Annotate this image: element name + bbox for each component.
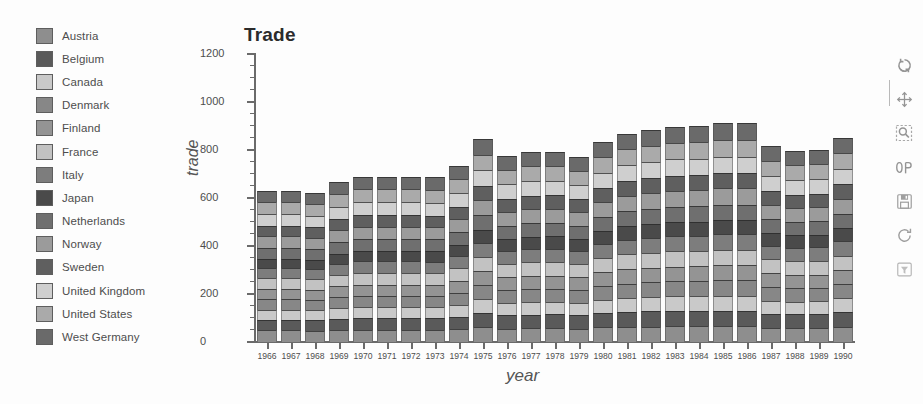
legend-item-netherlands[interactable]: Netherlands (36, 210, 206, 233)
bar-1981[interactable] (617, 134, 636, 342)
bar-1989[interactable] (809, 150, 828, 342)
bar-segment-france (329, 275, 348, 287)
bar-segment-belgium (257, 320, 276, 331)
home-icon[interactable] (893, 54, 915, 76)
legend-item-japan[interactable]: Japan (36, 186, 206, 209)
bar-1977[interactable] (521, 152, 540, 342)
bar-1976[interactable] (497, 156, 516, 342)
bar-segment-japan (785, 235, 804, 247)
x-tick (555, 343, 557, 349)
bar-1979[interactable] (569, 157, 588, 342)
save-icon[interactable] (893, 190, 915, 212)
bar-segment-sweden (545, 195, 564, 208)
bar-1974[interactable] (449, 166, 468, 342)
bar-segment-canada (785, 302, 804, 315)
bar-segment-italy (305, 269, 324, 279)
bar-segment-japan (497, 239, 516, 251)
subplots-icon[interactable] (893, 156, 915, 178)
bar-1988[interactable] (785, 151, 804, 342)
bar-segment-austria (377, 330, 396, 342)
legend-item-belgium[interactable]: Belgium (36, 47, 206, 70)
x-tick-label: 1982 (641, 351, 660, 361)
bar-segment-united-kingdom (545, 181, 564, 196)
bar-segment-japan (689, 222, 708, 236)
bar-segment-united-kingdom (425, 203, 444, 216)
bar-1987[interactable] (761, 146, 780, 342)
legend-item-west-germany[interactable]: West Germany (36, 325, 206, 348)
legend-item-austria[interactable]: Austria (36, 24, 206, 47)
bar-segment-austria (713, 326, 732, 342)
bar-1983[interactable] (665, 127, 684, 342)
bar-segment-norway (329, 230, 348, 242)
bar-1966[interactable] (257, 191, 276, 342)
bar-segment-finland (737, 265, 756, 280)
bar-segment-norway (377, 227, 396, 239)
zoom-rect-icon[interactable] (893, 122, 915, 144)
bar-1967[interactable] (281, 191, 300, 342)
bar-1968[interactable] (305, 193, 324, 342)
legend-item-finland[interactable]: Finland (36, 117, 206, 140)
bar-1969[interactable] (329, 182, 348, 342)
bar-segment-canada (281, 310, 300, 320)
bar-segment-united-states (401, 189, 420, 202)
bar-segment-italy (377, 261, 396, 272)
bar-segment-netherlands (521, 223, 540, 237)
legend-item-canada[interactable]: Canada (36, 70, 206, 93)
legend-item-france[interactable]: France (36, 140, 206, 163)
bar-segment-united-states (785, 165, 804, 180)
legend-item-norway[interactable]: Norway (36, 233, 206, 256)
bar-segment-france (617, 254, 636, 269)
legend-item-italy[interactable]: Italy (36, 163, 206, 186)
y-tick (247, 293, 255, 295)
bar-segment-belgium (785, 314, 804, 328)
bar-segment-belgium (713, 311, 732, 327)
bar-segment-sweden (377, 215, 396, 227)
bar-segment-france (281, 278, 300, 289)
bar-1986[interactable] (737, 123, 756, 342)
refresh-icon[interactable] (893, 224, 915, 246)
bar-segment-canada (809, 301, 828, 314)
bar-1975[interactable] (473, 139, 492, 342)
legend-swatch-icon (36, 144, 53, 160)
bar-segment-italy (665, 236, 684, 251)
bar-segment-united-kingdom (353, 202, 372, 215)
bar-segment-canada (737, 296, 756, 311)
x-tick (363, 343, 365, 349)
bar-segment-denmark (401, 296, 420, 307)
bar-1985[interactable] (713, 123, 732, 342)
bar-1982[interactable] (641, 130, 660, 342)
bar-segment-sweden (809, 194, 828, 207)
bar-1973[interactable] (425, 177, 444, 342)
bar-segment-japan (641, 224, 660, 238)
filter-icon[interactable] (893, 258, 915, 280)
bar-segment-canada (545, 302, 564, 315)
bar-1990[interactable] (833, 138, 852, 342)
legend-item-sweden[interactable]: Sweden (36, 256, 206, 279)
bar-segment-united-kingdom (449, 193, 468, 206)
legend-item-united-states[interactable]: United States (36, 302, 206, 325)
bar-1978[interactable] (545, 151, 564, 342)
bar-segment-japan (713, 220, 732, 234)
bar-segment-united-kingdom (521, 181, 540, 196)
bar-1972[interactable] (401, 177, 420, 342)
y-tick (247, 341, 255, 343)
legend-item-label: Denmark (62, 99, 109, 111)
bar-1971[interactable] (377, 177, 396, 342)
x-tick (627, 343, 629, 349)
bar-1984[interactable] (689, 126, 708, 342)
bar-1970[interactable] (353, 177, 372, 342)
legend-item-denmark[interactable]: Denmark (36, 94, 206, 117)
bar-segment-denmark (329, 297, 348, 308)
x-tick (315, 343, 317, 349)
bar-segment-west-germany (257, 191, 276, 202)
legend-item-label: Finland (62, 122, 100, 134)
bar-segment-canada (569, 303, 588, 315)
legend: AustriaBelgiumCanadaDenmarkFinlandFrance… (36, 24, 206, 349)
legend-item-united-kingdom[interactable]: United Kingdom (36, 279, 206, 302)
bar-segment-japan (449, 245, 468, 256)
x-tick (795, 343, 797, 349)
toolbar-divider (889, 80, 890, 106)
bar-1980[interactable] (593, 142, 612, 342)
bar-segment-sweden (497, 199, 516, 212)
move-icon[interactable] (893, 88, 915, 110)
